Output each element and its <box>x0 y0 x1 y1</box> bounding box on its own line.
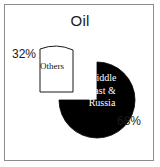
pie-label-line-1: Middle <box>78 72 126 85</box>
chart-figure: Oil 32% Others Middle East & Russia 68% <box>0 0 160 167</box>
pie-label-others-percent: 32% <box>12 48 36 61</box>
pie-label-line-3: Russia <box>78 97 126 110</box>
pie-label-middle-east-russia: Middle East & Russia <box>78 72 126 110</box>
pie-label-others-name: Others <box>40 61 64 71</box>
pie-label-line-2: East & <box>78 85 126 98</box>
pie-label-middle-east-russia-percent: 68% <box>117 115 141 128</box>
